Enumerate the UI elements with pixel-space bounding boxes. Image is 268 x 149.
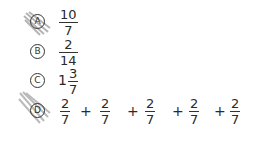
denominator: 7 bbox=[63, 24, 73, 37]
whole-number: 1 bbox=[58, 73, 67, 87]
denominator: 7 bbox=[230, 113, 240, 126]
choice-letter-a: A bbox=[30, 14, 45, 29]
plus-operator: + bbox=[80, 104, 92, 118]
numerator: 2 bbox=[63, 38, 73, 51]
choice-d[interactable]: D 2 7 + 2 7 + 2 7 + 2 7 + 2 7 bbox=[0, 97, 268, 125]
choice-b[interactable]: B 2 14 bbox=[0, 38, 268, 66]
denominator: 7 bbox=[68, 83, 78, 96]
denominator: 7 bbox=[189, 113, 199, 126]
denominator: 7 bbox=[100, 113, 110, 126]
fraction: 2 14 bbox=[59, 38, 78, 67]
plus-operator: + bbox=[172, 104, 184, 118]
fraction-term-3: 2 7 bbox=[145, 97, 155, 126]
fraction-term-2: 2 7 bbox=[100, 97, 110, 126]
numerator: 2 bbox=[145, 97, 155, 110]
numerator: 3 bbox=[68, 67, 78, 80]
numerator: 2 bbox=[60, 97, 70, 110]
choice-letter-c: C bbox=[30, 73, 45, 88]
plus-operator: + bbox=[214, 104, 226, 118]
fraction-term-1: 2 7 bbox=[60, 97, 70, 126]
numerator: 2 bbox=[230, 97, 240, 110]
choice-c[interactable]: C 1 3 7 bbox=[0, 67, 268, 95]
denominator: 7 bbox=[60, 113, 70, 126]
choice-letter-b: B bbox=[30, 44, 45, 59]
numerator: 10 bbox=[59, 8, 78, 21]
denominator: 7 bbox=[145, 113, 155, 126]
fraction: 10 7 bbox=[59, 8, 78, 37]
fraction-term-5: 2 7 bbox=[230, 97, 240, 126]
numerator: 2 bbox=[100, 97, 110, 110]
choice-letter-d: D bbox=[30, 103, 45, 118]
fraction-term-4: 2 7 bbox=[189, 97, 199, 126]
plus-operator: + bbox=[127, 104, 139, 118]
numerator: 2 bbox=[189, 97, 199, 110]
choice-a[interactable]: A 10 7 bbox=[0, 8, 268, 36]
fraction: 3 7 bbox=[68, 67, 78, 96]
